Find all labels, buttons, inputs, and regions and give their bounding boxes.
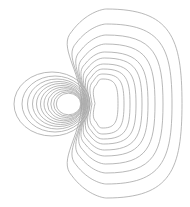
contour-diagram <box>0 0 190 207</box>
left-contour-0 <box>14 72 90 136</box>
left-contour-9 <box>54 92 82 116</box>
left-contour-8 <box>51 90 82 117</box>
right-contour-6 <box>85 64 136 144</box>
right-contour-4 <box>81 52 148 156</box>
right-contour-9 <box>93 79 118 128</box>
left-contour-10 <box>56 93 80 115</box>
left-lobe-contours <box>14 72 90 136</box>
contour-plot-canvas <box>0 0 190 207</box>
